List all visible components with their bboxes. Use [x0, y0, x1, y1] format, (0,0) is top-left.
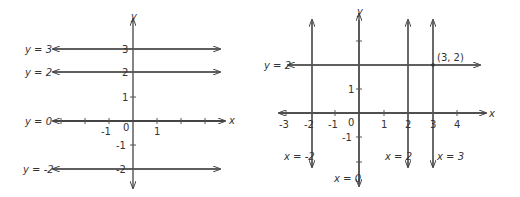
point-3-2 [431, 63, 435, 67]
left-y-tick-neg2: -2 [116, 164, 126, 175]
svg-text:x: x [228, 115, 235, 126]
left-x-tick-neg1: -1 [101, 126, 111, 137]
right-y-tick-1: 1 [348, 84, 354, 95]
right-x-tick-neg3: -3 [279, 119, 289, 130]
right-x-tick-4: 4 [454, 119, 460, 130]
right-x-tick-neg1: -1 [328, 119, 338, 130]
right-x-tick-2: 2 [405, 119, 411, 130]
line-x-2-label: x = 2 [384, 151, 412, 162]
right-x-tick-3: 3 [430, 119, 436, 130]
left-x-tick-1: 1 [154, 126, 160, 137]
left-y-tick-neg1: -1 [116, 140, 126, 151]
point-3-2-label: (3, 2) [437, 52, 464, 63]
line-x-0-label: x = 0 [333, 173, 361, 184]
left-y-tick-1: 1 [122, 92, 128, 103]
right-x-tick-1: 1 [381, 119, 387, 130]
line-y-2-right-label: y = 2 [263, 60, 291, 71]
graphs-figure: y y = 3 y = 2 y = 0 x y = -2 -1 0 1 3 2 … [0, 0, 520, 197]
right-x-tick-neg2: -2 [304, 119, 314, 130]
left-y-axis-label: y [130, 11, 138, 22]
left-graph: y y = 3 y = 2 y = 0 x y = -2 -1 0 1 3 2 … [22, 11, 235, 188]
right-graph: y x y = 2 x = -2 x = 0 x = 2 x = 3 (3, 2… [263, 6, 495, 186]
line-y-0-label: y = 0 [24, 116, 52, 127]
right-x-tick-0: 0 [348, 117, 354, 128]
left-x-tick-0: 0 [123, 122, 129, 133]
line-x-neg2-label: x = -2 [283, 151, 315, 162]
line-y-neg2-label: y = -2 [22, 164, 54, 175]
right-x-axis-label: x [488, 108, 495, 119]
line-x-3-label: x = 3 [436, 151, 464, 162]
line-y-3-label: y = 3 [24, 44, 52, 55]
right-y-tick-neg1: -1 [342, 132, 352, 143]
left-y-tick-2: 2 [122, 67, 128, 78]
left-y-tick-3: 3 [122, 44, 128, 55]
line-y-2-label: y = 2 [24, 67, 52, 78]
right-y-axis-label: y [356, 6, 364, 17]
